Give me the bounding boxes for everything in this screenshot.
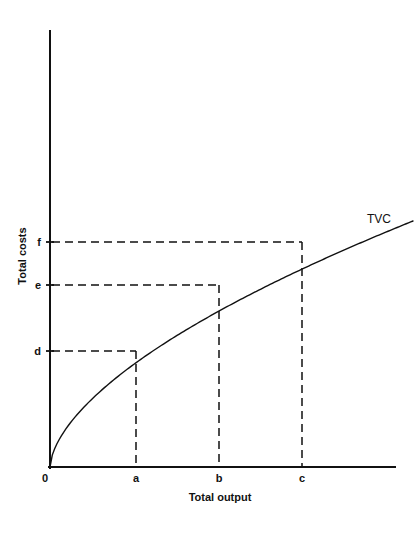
y-tick-label-e: e (35, 279, 41, 291)
x-axis-title: Total output (189, 491, 252, 503)
y-tick-label-f: f (37, 236, 41, 248)
x-tick-label-c: c (299, 472, 305, 484)
y-axis-title: Total costs (16, 227, 28, 284)
total-variable-cost-chart: TVC Total costs Total output 0 a b c f e… (0, 0, 420, 537)
x-tick-label-a: a (133, 472, 140, 484)
tvc-curve-label: TVC (367, 212, 391, 226)
x-tick-label-b: b (216, 472, 223, 484)
y-tick-label-d: d (34, 345, 41, 357)
origin-label: 0 (42, 472, 48, 484)
chart-background (0, 0, 420, 537)
